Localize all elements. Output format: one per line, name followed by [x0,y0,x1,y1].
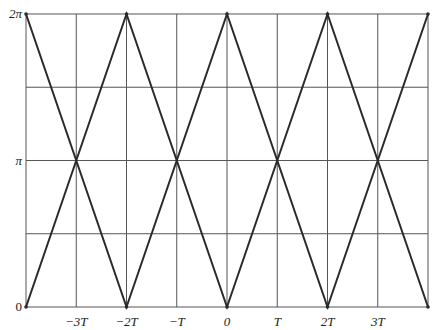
vertex-point [326,12,330,16]
vertex-point [426,12,430,16]
vertex-point [225,12,229,16]
vertex-point [24,12,28,16]
y-tick-label: π [15,153,22,168]
vertex-point [225,305,229,309]
grid [26,14,428,307]
x-tick-label: −2T [115,314,138,329]
x-tick-label: 0 [224,314,231,329]
y-tick-labels: 0π2π [9,6,23,314]
vertex-point [125,305,129,309]
y-tick-label: 0 [16,299,23,314]
vertex-point [125,12,129,16]
vertex-point [24,305,28,309]
vertex-point [326,305,330,309]
x-tick-label: 3T [370,314,386,329]
vertex-point [426,305,430,309]
y-tick-label: 2π [9,6,23,21]
x-tick-label: −T [169,314,186,329]
x-tick-label: T [274,314,282,329]
x-tick-labels: −3T−2T−T0T2T3T [65,314,385,329]
x-tick-label: −3T [65,314,88,329]
x-tick-label: 2T [321,314,336,329]
chart: −3T−2T−T0T2T3T 0π2π [0,0,440,330]
